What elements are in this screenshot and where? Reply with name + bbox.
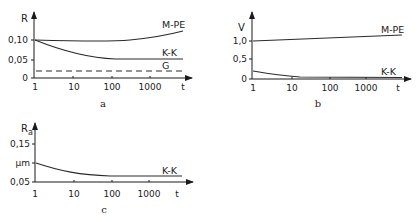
y-tick-label: 0 [241, 74, 247, 84]
series-label-kk-b: K-K [381, 66, 397, 77]
chart-c: Ra 0,15 µm 0,05 1 10 100 1000 t K-K c [10, 123, 193, 215]
series-mpe-a [35, 31, 183, 41]
x-tick-label: 1000 [139, 82, 162, 92]
series-label-kk-c: K-K [162, 165, 178, 176]
y-tick-label: 0,05 [8, 55, 28, 65]
x-tick-label: 100 [321, 83, 338, 93]
x-tick-label: 1 [32, 82, 38, 92]
x-axis-title-b: t [396, 83, 400, 93]
x-axis-title-a: t [181, 82, 185, 92]
y-tick-label: 1,0 [233, 36, 248, 46]
x-axis-title-c: t [175, 189, 179, 199]
x-tick-label: 1 [250, 83, 256, 93]
x-tick-label: 10 [68, 82, 80, 92]
series-label-mpe-a: M-PE [162, 19, 185, 30]
x-tick-label: 1 [32, 189, 38, 199]
x-tick-label: 1000 [355, 83, 378, 93]
x-tick-label: 1000 [138, 189, 161, 199]
panel-caption-c: c [101, 204, 107, 215]
y-tick-label: 0,05 [10, 177, 30, 187]
series-label-kk-a: K-K [162, 47, 178, 58]
chart-b: V 1,0 0,5 0 1 10 100 1000 t M-PE K-K b [233, 12, 411, 109]
panel-caption-b: b [315, 98, 321, 109]
y-axis-title-b: V [238, 22, 245, 33]
series-label-g-a: G [162, 60, 169, 71]
x-tick-label: 10 [286, 83, 298, 93]
series-label-mpe-b: M-PE [381, 24, 404, 35]
series-kk-c [36, 163, 182, 176]
series-mpe-b [253, 35, 402, 41]
figure: R 0,10 0,05 0 1 10 100 1000 t M-PE K-K G… [0, 0, 418, 222]
y-tick-label: 0,10 [8, 35, 28, 45]
y-axis-title-c: Ra [21, 123, 33, 137]
y-tick-label: 0,5 [233, 54, 247, 64]
x-tick-label: 10 [68, 189, 80, 199]
x-tick-label: 100 [103, 189, 120, 199]
panel-caption-a: a [100, 98, 106, 109]
x-tick-label: 100 [103, 82, 120, 92]
chart-a: R 0,10 0,05 0 1 10 100 1000 t M-PE K-K G… [8, 12, 192, 109]
series-kk-a [35, 40, 183, 59]
y-unit-label: µm [16, 158, 31, 168]
y-axis-title-a: R [21, 13, 28, 24]
y-tick-label: 0 [22, 73, 28, 83]
series-kk-b [253, 71, 402, 78]
y-tick-label: 0,15 [10, 139, 30, 149]
